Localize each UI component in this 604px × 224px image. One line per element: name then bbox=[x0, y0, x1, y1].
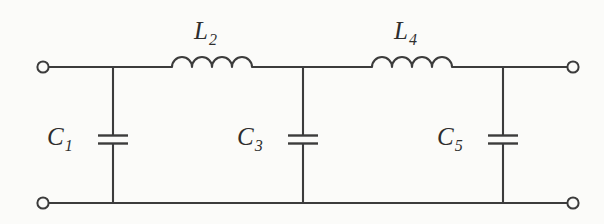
component-label-C5-letter: C bbox=[437, 123, 454, 150]
terminal-output-bottom-icon bbox=[567, 197, 578, 208]
terminal-output-top-icon bbox=[567, 61, 578, 72]
terminal-input-bottom-icon bbox=[37, 197, 48, 208]
component-label-C1-subscript: 1 bbox=[65, 137, 73, 154]
component-label-L2: L2 bbox=[194, 18, 216, 43]
circuit-diagram: L2 L4 C1 C3 C5 bbox=[0, 0, 604, 224]
inductor-L4-coil-icon bbox=[372, 57, 452, 67]
terminal-input-top-icon bbox=[37, 61, 48, 72]
component-label-C5-subscript: 5 bbox=[455, 137, 463, 154]
component-label-C5: C5 bbox=[437, 124, 462, 149]
component-label-L2-subscript: 2 bbox=[209, 31, 217, 48]
component-label-L4: L4 bbox=[394, 18, 416, 43]
component-label-C1: C1 bbox=[47, 124, 72, 149]
component-label-C3-subscript: 3 bbox=[255, 137, 263, 154]
component-label-C3: C3 bbox=[237, 124, 262, 149]
component-label-C3-letter: C bbox=[237, 123, 254, 150]
circuit-schematic-canvas bbox=[0, 0, 604, 224]
component-label-L2-letter: L bbox=[194, 17, 208, 44]
component-label-L4-subscript: 4 bbox=[409, 31, 417, 48]
component-label-C1-letter: C bbox=[47, 123, 64, 150]
component-label-L4-letter: L bbox=[394, 17, 408, 44]
inductor-L2-coil-icon bbox=[172, 57, 252, 67]
